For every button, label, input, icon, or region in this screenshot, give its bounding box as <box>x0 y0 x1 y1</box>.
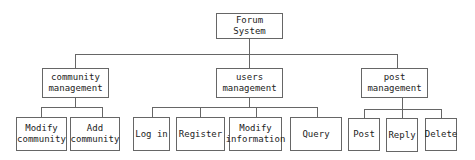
connector <box>256 107 257 117</box>
connector <box>402 98 403 109</box>
connector <box>41 107 102 108</box>
connector <box>317 107 318 117</box>
node-post-management: post management <box>361 68 428 98</box>
connector <box>75 54 397 55</box>
node-forum-system: Forum System <box>216 13 283 39</box>
node-modify-information: Modify information <box>229 117 282 151</box>
node-register: Register <box>176 117 225 151</box>
node-modify-community: Modify community <box>16 117 67 151</box>
connector <box>102 107 103 117</box>
connector <box>200 107 201 117</box>
node-community-management: community management <box>42 68 109 98</box>
connector <box>249 98 250 107</box>
connector <box>364 109 365 118</box>
connector <box>397 54 398 68</box>
node-users-management: users management <box>216 68 283 98</box>
node-add-community: Add community <box>70 117 120 151</box>
connector <box>75 54 76 68</box>
node-post: Post <box>348 118 380 151</box>
connector <box>75 98 76 107</box>
connector <box>41 107 42 117</box>
node-log-in: Log in <box>133 117 170 151</box>
node-reply: Reply <box>386 118 418 152</box>
connector <box>441 109 442 118</box>
connector <box>152 107 317 108</box>
node-query: Query <box>290 117 342 151</box>
node-delete: Delete <box>425 118 457 151</box>
connector <box>152 107 153 117</box>
connector <box>402 109 403 118</box>
connector <box>249 39 250 54</box>
connector <box>249 54 250 68</box>
